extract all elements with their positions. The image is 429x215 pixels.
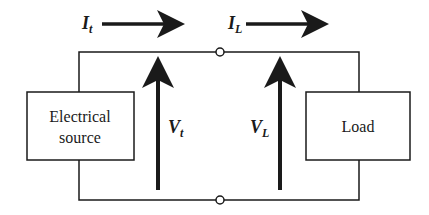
voltage-vl-label: VL <box>250 117 269 140</box>
voltage-vt-label: Vt <box>168 117 184 140</box>
electrical-source-box: Electrical source <box>27 92 134 160</box>
top-wire <box>79 52 359 92</box>
bottom-wire <box>79 160 359 200</box>
source-label-line2: source <box>59 129 101 146</box>
load-label: Load <box>342 118 375 135</box>
load-box: Load <box>306 92 410 160</box>
current-it-label: It <box>81 13 93 36</box>
circuit-diagram: Electrical source Load It IL Vt VL <box>0 0 429 215</box>
top-terminal-icon <box>216 48 224 56</box>
source-label-line1: Electrical <box>49 108 111 125</box>
bottom-terminal-icon <box>216 196 224 204</box>
current-il-label: IL <box>227 13 242 36</box>
